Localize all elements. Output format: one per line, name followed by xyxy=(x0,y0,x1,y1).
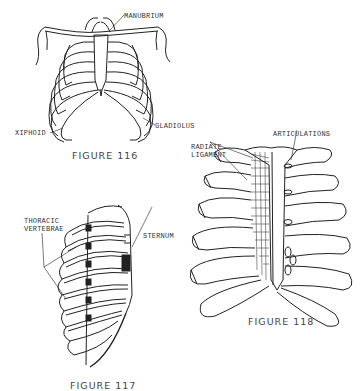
label-thoracic-vertebrae: THORACIC VERTEBRAE xyxy=(24,217,64,233)
figure-caption: FIGURE 116 xyxy=(72,150,138,161)
figure-caption: FIGURE 117 xyxy=(70,380,136,391)
label-articulations: ARTICULATIONS xyxy=(273,130,330,138)
figure-117: THORACIC VERTEBRAE STERNUM FIGURE 117 xyxy=(0,195,185,385)
figure-118: RADIATE LIGAMENT ARTICULATIONS FIGURE 11… xyxy=(185,120,360,335)
figure-116: MANUBRIUM XIPHOID GLADIOLUS FIGURE 116 xyxy=(0,0,185,190)
label-sternum: STERNUM xyxy=(143,232,174,240)
label-manubrium: MANUBRIUM xyxy=(124,12,164,20)
label-xiphoid: XIPHOID xyxy=(15,129,46,137)
label-radiate-ligament: RADIATE LIGAMENT xyxy=(191,143,226,159)
rib-cage-anterior-illustration xyxy=(0,0,185,190)
figure-caption: FIGURE 118 xyxy=(248,316,314,327)
